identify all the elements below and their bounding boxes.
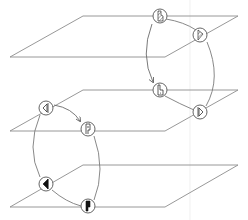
node-e xyxy=(39,101,53,115)
diagram-svg xyxy=(0,0,248,220)
node-circle xyxy=(39,101,53,115)
node-circle xyxy=(193,105,207,119)
node-f xyxy=(81,122,95,136)
node-c xyxy=(153,83,167,97)
node-a xyxy=(153,9,167,23)
edge-b-d xyxy=(206,42,214,106)
edge-a-c-arrow xyxy=(146,24,153,82)
edge-f-h xyxy=(94,136,100,200)
edge-e-g xyxy=(33,115,40,177)
edge-c-d xyxy=(165,96,194,110)
edge-g-h xyxy=(52,190,81,206)
node-g xyxy=(39,177,53,191)
diagram-canvas xyxy=(0,0,248,220)
node-b xyxy=(193,28,207,42)
node-h xyxy=(81,199,95,213)
edge-e-f-arrow xyxy=(54,105,80,121)
node-d xyxy=(193,105,207,119)
edge-a-b xyxy=(166,19,196,30)
